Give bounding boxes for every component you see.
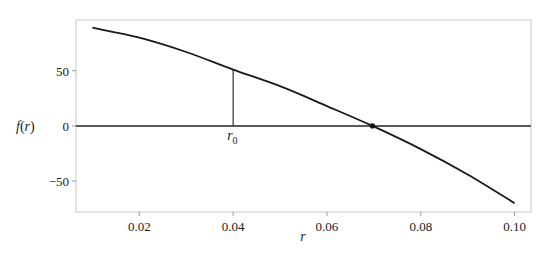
x-tick-label: 0.04	[222, 219, 245, 234]
x-tick-label: 0.08	[409, 219, 432, 234]
y-tick-label: −50	[49, 174, 69, 189]
root-marker	[370, 123, 375, 128]
f-curve	[92, 28, 514, 203]
y-axis-ticks: −50050	[49, 64, 76, 189]
y-axis-label: f(r)	[16, 119, 35, 135]
x-axis-ticks: 0.020.040.060.080.10	[128, 212, 526, 234]
chart: 0.020.040.060.080.10 −50050 r0 r f(r)	[0, 0, 558, 253]
x-tick-label: 0.10	[503, 219, 526, 234]
y-tick-label: 50	[56, 64, 69, 79]
x-tick-label: 0.06	[316, 219, 339, 234]
y-tick-label: 0	[63, 119, 70, 134]
x-tick-label: 0.02	[128, 219, 151, 234]
r0-label: r0	[227, 128, 237, 146]
x-axis-label: r	[300, 229, 306, 244]
plot-area-frame	[76, 20, 531, 212]
